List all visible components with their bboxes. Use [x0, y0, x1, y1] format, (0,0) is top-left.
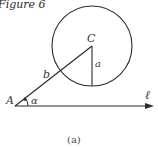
arrow-head-icon: [145, 103, 154, 109]
label-A: A: [5, 94, 14, 107]
label-a: a: [95, 58, 101, 69]
label-l: ℓ: [145, 88, 150, 102]
label-C: C: [87, 32, 96, 45]
label-b: b: [43, 68, 50, 81]
figure-title: Figure 6: [0, 0, 46, 11]
label-alpha: α: [31, 95, 38, 106]
caption: (a): [67, 134, 81, 145]
figure-6-diagram: Figure 6 A α b C a ℓ (a): [0, 0, 158, 147]
